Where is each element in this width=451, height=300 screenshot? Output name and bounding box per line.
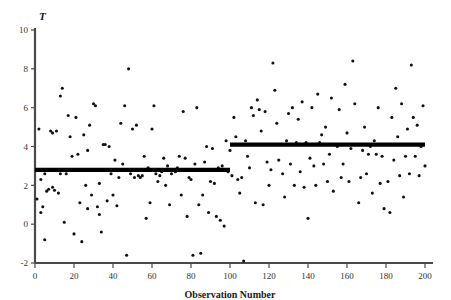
data-point — [90, 193, 93, 196]
data-point — [248, 166, 251, 169]
data-point — [242, 260, 245, 263]
data-point — [223, 225, 226, 228]
data-point — [76, 153, 79, 156]
data-point — [349, 147, 352, 150]
data-point — [342, 162, 345, 165]
data-point — [281, 172, 284, 175]
data-point — [72, 232, 75, 235]
data-point — [256, 98, 259, 101]
x-tick-label: 160 — [340, 271, 354, 281]
data-point — [275, 122, 278, 125]
data-point — [375, 153, 378, 156]
data-point — [41, 205, 44, 208]
data-point — [199, 252, 202, 255]
data-point — [191, 254, 194, 257]
data-point — [43, 238, 46, 241]
data-point — [396, 135, 399, 138]
x-tick-label: 60 — [148, 271, 158, 281]
data-point — [320, 133, 323, 136]
data-point — [332, 190, 335, 193]
data-point — [262, 203, 265, 206]
data-point — [422, 104, 425, 107]
data-point — [182, 110, 185, 113]
data-point — [37, 127, 40, 130]
data-point — [264, 110, 267, 113]
x-tick-label: 0 — [33, 271, 38, 281]
data-point — [98, 213, 101, 216]
data-point — [195, 106, 198, 109]
data-point — [269, 168, 272, 171]
data-point — [59, 172, 62, 175]
data-point — [94, 104, 97, 107]
data-point — [213, 182, 216, 185]
data-point — [170, 172, 173, 175]
data-point — [207, 211, 210, 214]
data-point — [353, 102, 356, 105]
data-point — [110, 172, 113, 175]
data-point — [225, 139, 228, 142]
data-point — [78, 201, 81, 204]
data-point — [180, 193, 183, 196]
data-point — [326, 180, 329, 183]
data-point — [143, 155, 146, 158]
data-point — [39, 178, 42, 181]
data-point — [215, 215, 218, 218]
data-point — [347, 180, 350, 183]
data-point — [88, 124, 91, 127]
data-point — [119, 122, 122, 125]
data-point — [111, 193, 114, 196]
data-point — [402, 195, 405, 198]
data-point — [197, 203, 200, 206]
data-point — [398, 174, 401, 177]
data-point — [289, 162, 292, 165]
data-point — [250, 106, 253, 109]
data-point — [149, 201, 152, 204]
data-point — [127, 67, 130, 70]
data-point — [47, 188, 50, 191]
chart-container: -20246810020406080100120140160180200TObs… — [0, 0, 451, 300]
data-point — [310, 106, 313, 109]
data-point — [291, 106, 294, 109]
data-point — [408, 172, 411, 175]
data-point — [166, 164, 169, 167]
data-point — [381, 155, 384, 158]
data-point — [414, 155, 417, 158]
data-point — [232, 116, 235, 119]
data-point — [71, 155, 74, 158]
data-point — [145, 217, 148, 220]
data-point — [363, 126, 366, 129]
y-axis-variable-label: T — [39, 10, 47, 22]
data-point — [390, 116, 393, 119]
data-point — [394, 87, 397, 90]
data-point — [240, 176, 243, 179]
data-point — [67, 114, 70, 117]
y-tick-label: 10 — [19, 25, 29, 35]
data-point — [234, 135, 237, 138]
data-point — [412, 116, 415, 119]
data-point — [43, 172, 46, 175]
data-point — [104, 143, 107, 146]
data-point — [324, 126, 327, 129]
data-point — [228, 149, 231, 152]
data-point — [121, 162, 124, 165]
data-point — [314, 184, 317, 187]
data-point — [410, 63, 413, 66]
data-point — [246, 155, 249, 158]
data-point — [131, 127, 134, 130]
data-point — [238, 192, 241, 195]
data-point — [59, 94, 62, 97]
data-point — [82, 133, 85, 136]
data-point — [117, 176, 120, 179]
data-point — [152, 104, 155, 107]
data-point — [400, 102, 403, 105]
data-point — [113, 159, 116, 162]
data-point — [386, 180, 389, 183]
data-point — [39, 211, 42, 214]
data-point — [392, 159, 395, 162]
data-point — [312, 164, 315, 167]
data-point — [211, 147, 214, 150]
data-point — [51, 186, 54, 189]
data-point — [383, 207, 386, 210]
y-tick-label: 4 — [24, 142, 29, 152]
data-point — [416, 124, 419, 127]
